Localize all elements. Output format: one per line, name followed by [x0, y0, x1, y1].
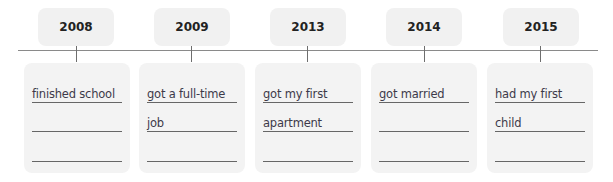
event-card-2015: had my first child: [487, 63, 593, 173]
write-line: [379, 131, 469, 132]
write-line: [32, 161, 122, 162]
event-card-2013: got my first apartment: [255, 63, 361, 173]
event-text-line-2: apartment: [263, 117, 353, 130]
year-box-2015: 2015: [503, 8, 579, 46]
tick-mark: [424, 46, 425, 62]
year-box-2013: 2013: [270, 8, 346, 46]
event-text-line-1: had my first: [495, 88, 585, 101]
write-line: [32, 131, 122, 132]
year-label: 2014: [407, 20, 440, 34]
tick-mark: [76, 46, 77, 62]
event-text-line-2: job: [147, 117, 237, 130]
event-card-2008: finished school: [24, 63, 130, 173]
event-text-line-1: got a full-time: [147, 88, 237, 101]
write-line: [263, 102, 353, 103]
year-box-2014: 2014: [386, 8, 462, 46]
event-text-line-1: finished school: [32, 88, 122, 101]
write-line: [32, 102, 122, 103]
year-box-2008: 2008: [38, 8, 114, 46]
write-line: [379, 161, 469, 162]
timeline-line: [18, 50, 598, 51]
tick-mark: [307, 46, 308, 62]
event-text-line-1: got my first: [263, 88, 353, 101]
write-line: [495, 131, 585, 132]
event-card-2009: got a full-time job: [139, 63, 245, 173]
write-line: [379, 102, 469, 103]
tick-mark: [191, 46, 192, 62]
year-label: 2009: [175, 20, 208, 34]
tick-mark: [540, 46, 541, 62]
year-label: 2008: [59, 20, 92, 34]
event-text-line-1: got married: [379, 88, 469, 101]
year-label: 2013: [291, 20, 324, 34]
year-box-2009: 2009: [154, 8, 230, 46]
write-line: [495, 161, 585, 162]
event-text-line-2: child: [495, 117, 585, 130]
write-line: [263, 131, 353, 132]
write-line: [263, 161, 353, 162]
year-label: 2015: [524, 20, 557, 34]
write-line: [495, 102, 585, 103]
event-card-2014: got married: [371, 63, 477, 173]
write-line: [147, 161, 237, 162]
write-line: [147, 102, 237, 103]
write-line: [147, 131, 237, 132]
